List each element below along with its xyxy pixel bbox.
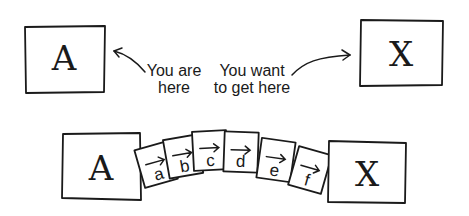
diagram-drawing: A X A a b — [0, 0, 469, 216]
bottom-start-box: A — [62, 133, 141, 200]
bottom-end-box-label: X — [355, 154, 380, 194]
arrow-to-end-icon — [292, 50, 350, 75]
top-start-box-label: A — [51, 38, 77, 78]
top-end-box-label: X — [389, 34, 414, 74]
step-box-c: c — [192, 130, 228, 171]
end-caption-line2: to get here — [209, 79, 295, 96]
bottom-end-box: X — [328, 141, 406, 203]
step-label-c: c — [206, 151, 216, 170]
start-caption-line2: here — [142, 79, 206, 96]
step-label-d: d — [236, 152, 246, 171]
end-caption: You want to get here — [209, 62, 295, 96]
arrow-to-start-icon — [114, 48, 145, 72]
top-start-box: A — [25, 26, 105, 93]
bottom-start-box-label: A — [88, 148, 114, 188]
step-box-e: e — [256, 138, 295, 182]
top-end-box: X — [360, 20, 443, 86]
start-caption: You are here — [142, 62, 206, 96]
step-box-d: d — [223, 131, 258, 172]
diagram: A X A a b — [0, 0, 469, 216]
start-caption-line1: You are — [142, 62, 206, 79]
end-caption-line1: You want — [209, 62, 295, 79]
